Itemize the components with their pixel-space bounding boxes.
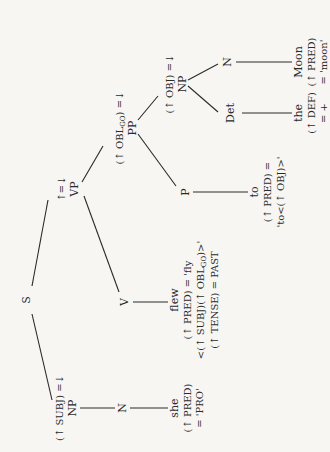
node-v: V	[118, 297, 131, 307]
word-she: she	[168, 398, 181, 417]
annotation-vp: ↑=↓	[56, 176, 67, 201]
fstruct-she-1: (↑ PRED)	[182, 383, 193, 432]
annotation-pp: (↑ OBLGO) =↓	[114, 92, 127, 165]
node-n-subj: N	[116, 403, 129, 413]
fstruct-the-2: = +	[318, 103, 329, 123]
node-pp: PP	[126, 120, 139, 135]
edge-vp-pp	[82, 146, 103, 182]
edge-pp-np	[138, 96, 158, 120]
node-vp: VP	[68, 181, 81, 198]
edge-np-n-obj	[188, 64, 218, 80]
edge-s-vp	[32, 200, 48, 286]
fstruct-to-1: (↑ PRED) =	[262, 162, 273, 223]
node-np-obj: NP	[176, 75, 189, 93]
leaf-to: to (↑ PRED) = 'to<(↑ OBJ)>'	[248, 156, 286, 227]
fstruct-flew-1: (↑ PRED) = 'fly	[182, 260, 193, 339]
fstruct-moon-2: = 'moon'	[318, 39, 329, 84]
word-moon: Moon	[292, 46, 305, 78]
fstruct-moon-1: (↑ PRED)	[306, 37, 317, 86]
node-n-obj: N	[221, 57, 234, 67]
edge-vp-v	[84, 196, 119, 292]
leaf-the: the (↑ DEF) = +	[292, 92, 329, 134]
annotation-np-subj: (↑ SUBJ) =↓	[54, 375, 65, 441]
node-p: P	[179, 188, 192, 196]
node-np-subj: NP	[66, 399, 79, 417]
fstruct-flew-3: (↑ TENSE) = PAST	[209, 251, 220, 349]
tree-edges	[32, 62, 292, 408]
leaf-she: she (↑ PRED) = 'PRO'	[168, 383, 205, 432]
fstruct-the-1: (↑ DEF)	[306, 92, 317, 134]
leaf-moon: Moon (↑ PRED) = 'moon'	[292, 37, 329, 86]
edge-np-det	[188, 86, 218, 112]
lfg-tree-diagram: S (↑ SUBJ) =↓ NP N she (↑ PRED) = 'PRO' …	[0, 0, 330, 452]
node-det: Det	[224, 103, 237, 123]
word-the: the	[292, 104, 305, 122]
annotation-np-obj: (↑ OBJ) =↓	[164, 55, 175, 114]
word-flew: flew	[168, 288, 181, 312]
word-to: to	[248, 186, 261, 197]
fstruct-to-2: 'to<(↑ OBJ)>'	[275, 156, 286, 227]
edge-pp-p	[138, 134, 176, 186]
leaf-flew: flew (↑ PRED) = 'fly <(↑ SUBJ)(↑ OBLGO)>…	[168, 241, 220, 359]
fstruct-flew-2: <(↑ SUBJ)(↑ OBLGO)>'	[195, 241, 208, 359]
node-s: S	[20, 296, 33, 304]
fstruct-she-2: = 'PRO'	[194, 388, 205, 428]
edge-s-np	[32, 314, 52, 400]
